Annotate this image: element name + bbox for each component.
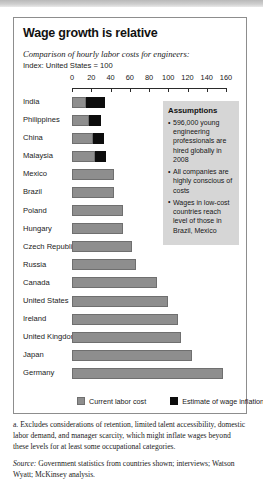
- footnote-a: a. Excludes considerations of retention,…: [13, 420, 247, 452]
- category-label: United States: [23, 296, 69, 305]
- bar-segment-current-labor-cost: [72, 133, 93, 144]
- x-tick-label: 140: [201, 73, 213, 82]
- category-label: Malaysia: [23, 151, 53, 160]
- category-label: India: [23, 97, 39, 106]
- x-tick-label: 60: [126, 73, 134, 82]
- chart-row: Ireland: [14, 311, 248, 329]
- chart-row: Japan: [14, 347, 248, 365]
- legend-label-current-labor-cost: Current labor cost: [89, 397, 146, 406]
- assumption-item: 596,000 young engineering professionals …: [168, 118, 234, 164]
- legend-label-wage-inflation: Estimate of wage inflationa: [182, 396, 263, 406]
- chart-row: Canada: [14, 275, 248, 293]
- bar-segment-current-labor-cost: [72, 277, 157, 288]
- x-tick-label: 40: [106, 73, 114, 82]
- x-tick-label: 160: [220, 73, 232, 82]
- bar-segment-current-labor-cost: [72, 151, 95, 162]
- bar-segment-current-labor-cost: [72, 350, 192, 361]
- x-axis-line: [72, 88, 227, 89]
- bar-segment-current-labor-cost: [72, 368, 223, 379]
- bar-segment-current-labor-cost: [72, 259, 136, 270]
- bar-segment-current-labor-cost: [72, 314, 178, 325]
- x-axis-tick-labels: 020406080100120140160: [14, 73, 248, 83]
- bar-segment-current-labor-cost: [72, 169, 114, 180]
- category-label: Hungary: [23, 224, 52, 233]
- legend-item-current-labor-cost: Current labor cost: [77, 397, 146, 406]
- category-label: Philippines: [23, 115, 60, 124]
- bar-segment-wage-inflation: [95, 151, 106, 162]
- bar-segment-current-labor-cost: [72, 223, 123, 234]
- bar-segment-current-labor-cost: [72, 187, 114, 198]
- page-top-band: [0, 0, 263, 7]
- category-label: Canada: [23, 278, 50, 287]
- bar-segment-wage-inflation: [93, 133, 104, 144]
- chart-row: Germany: [14, 365, 248, 383]
- legend-item-wage-inflation: Estimate of wage inflationa: [170, 396, 263, 406]
- category-label: Czech Republic: [23, 242, 76, 251]
- category-label: Russia: [23, 260, 46, 269]
- category-label: Mexico: [23, 169, 47, 178]
- exhibit-card: Wage growth is relative Comparison of ho…: [13, 17, 247, 414]
- x-tick-label: 120: [181, 73, 193, 82]
- bar-segment-current-labor-cost: [72, 241, 132, 252]
- bar-segment-current-labor-cost: [72, 332, 181, 343]
- x-tick-label: 80: [145, 73, 153, 82]
- x-tick-label: 20: [87, 73, 95, 82]
- category-label: Brazil: [23, 187, 42, 196]
- chart-legend: Current labor cost Estimate of wage infl…: [14, 396, 248, 406]
- category-label: United Kingdom: [23, 332, 77, 341]
- bar-segment-current-labor-cost: [72, 115, 89, 126]
- chart-row: United States: [14, 293, 248, 311]
- assumptions-list: 596,000 young engineering professionals …: [168, 118, 234, 235]
- category-label: Japan: [23, 350, 44, 359]
- assumption-item: Wages in low-cost countries reach level …: [168, 198, 234, 235]
- bar-segment-wage-inflation: [89, 115, 101, 126]
- bar-segment-current-labor-cost: [72, 296, 168, 307]
- assumption-item: All companies are highly conscious of co…: [168, 167, 234, 195]
- chart-row: Russia: [14, 257, 248, 275]
- assumptions-heading: Assumptions: [168, 106, 234, 115]
- x-tick-label: 0: [70, 73, 74, 82]
- footnotes: a. Excludes considerations of retention,…: [13, 420, 247, 481]
- legend-swatch-black: [170, 397, 178, 405]
- source-label: Source:: [13, 459, 36, 468]
- category-label: Germany: [23, 368, 54, 377]
- bar-segment-current-labor-cost: [72, 205, 123, 216]
- bar-segment-wage-inflation: [86, 97, 104, 108]
- legend-swatch-grey: [77, 397, 85, 405]
- category-label: China: [23, 133, 43, 142]
- source-note: Source: Government statistics from count…: [13, 459, 247, 481]
- chart-row: United Kingdom: [14, 329, 248, 347]
- bar-segment-current-labor-cost: [72, 97, 86, 108]
- category-label: Ireland: [23, 314, 46, 323]
- assumptions-box: Assumptions 596,000 young engineering pr…: [163, 101, 239, 245]
- category-label: Poland: [23, 206, 47, 215]
- source-text: Government statistics from countries sho…: [13, 459, 234, 479]
- x-tick-label: 100: [162, 73, 174, 82]
